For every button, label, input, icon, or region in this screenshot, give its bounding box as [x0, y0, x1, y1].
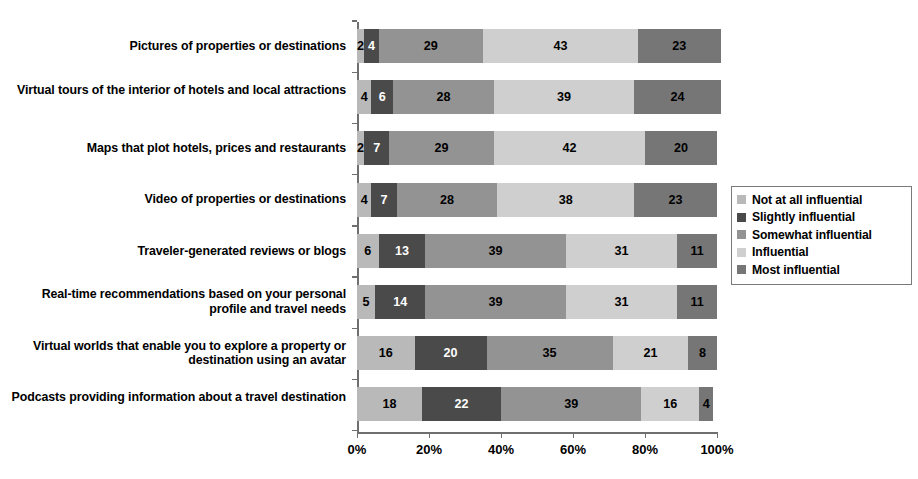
- y-axis-tick: [352, 20, 357, 21]
- legend-swatch-icon: [737, 195, 746, 204]
- legend-item[interactable]: Not at all influential: [737, 191, 906, 208]
- bar-segment: 13: [379, 234, 426, 268]
- bar-row: 47283823: [357, 183, 717, 217]
- bar-segment-value: 13: [395, 244, 409, 258]
- legend-label: Most influential: [752, 263, 840, 277]
- bar-segment-value: 11: [691, 295, 704, 309]
- bar-segment: 6: [371, 80, 393, 114]
- legend-item[interactable]: Slightly influential: [737, 209, 906, 226]
- x-axis-tick-label: 40%: [471, 442, 531, 457]
- bar-segment-value: 39: [489, 295, 503, 309]
- bar-segment-value: 5: [362, 295, 369, 309]
- bar-segment: 11: [677, 234, 717, 268]
- bar-segment: 6: [357, 234, 379, 268]
- legend-swatch-icon: [737, 213, 746, 222]
- bar-segment: 31: [566, 234, 678, 268]
- bar-segment-value: 39: [557, 90, 571, 104]
- bar-segment-value: 11: [691, 244, 704, 258]
- bar-segment: 2: [357, 29, 364, 63]
- bar-row: 162035218: [357, 336, 717, 370]
- legend-item[interactable]: Somewhat influential: [737, 226, 906, 243]
- bar-segment-value: 42: [562, 141, 576, 155]
- bar-segment-value: 20: [444, 346, 458, 360]
- bar-segment-value: 4: [703, 397, 710, 411]
- category-label: Virtual tours of the interior of hotels …: [8, 83, 346, 98]
- bar-segment: 4: [364, 29, 378, 63]
- y-axis-tick: [352, 328, 357, 329]
- bar-segment: 29: [379, 29, 483, 63]
- bar-segment-value: 38: [559, 193, 573, 207]
- chart-legend: Not at all influentialSlightly influenti…: [731, 186, 912, 285]
- bar-segment-value: 16: [379, 346, 393, 360]
- category-label: Virtual worlds that enable you to explor…: [8, 339, 346, 368]
- bar-segment-value: 31: [615, 244, 629, 258]
- bar-segment-value: 2: [357, 39, 364, 53]
- bar-segment-value: 16: [663, 397, 677, 411]
- x-axis-tick: [501, 432, 502, 438]
- x-axis-tick-label: 0%: [327, 442, 387, 457]
- x-axis-tick: [573, 432, 574, 438]
- legend-swatch-icon: [737, 230, 746, 239]
- bar-segment: 7: [371, 183, 396, 217]
- bar-segment-value: 39: [564, 397, 578, 411]
- x-axis-tick: [429, 432, 430, 438]
- bar-segment-value: 8: [699, 346, 706, 360]
- bar-segment: 42: [494, 131, 645, 165]
- category-label: Pictures of properties or destinations: [8, 39, 346, 54]
- bar-segment-value: 29: [424, 39, 438, 53]
- bar-row: 613393111: [357, 234, 717, 268]
- bar-row: 514393111: [357, 285, 717, 319]
- bar-segment: 22: [422, 387, 501, 421]
- bar-row: 182239164: [357, 387, 717, 421]
- bar-segment: 20: [415, 336, 487, 370]
- x-axis-tick-label: 80%: [615, 442, 675, 457]
- bar-row: 24294323: [357, 29, 717, 63]
- bar-segment-value: 23: [672, 39, 686, 53]
- bar-segment: 29: [389, 131, 493, 165]
- legend-item[interactable]: Influential: [737, 244, 906, 261]
- legend-label: Slightly influential: [752, 210, 855, 224]
- x-axis-tick: [645, 432, 646, 438]
- bar-segment-value: 7: [373, 141, 380, 155]
- bar-segment: 23: [638, 29, 721, 63]
- bar-segment: 8: [688, 336, 717, 370]
- bar-segment: 20: [645, 131, 717, 165]
- stacked-bar-chart: Pictures of properties or destinationsVi…: [0, 0, 918, 479]
- x-axis-tick-label: 60%: [543, 442, 603, 457]
- bar-segment-value: 2: [357, 141, 364, 155]
- bar-segment: 18: [357, 387, 422, 421]
- bar-segment-value: 4: [368, 39, 375, 53]
- bar-segment: 35: [487, 336, 613, 370]
- legend-item[interactable]: Most influential: [737, 261, 906, 278]
- category-axis-labels: Pictures of properties or destinationsVi…: [8, 22, 346, 432]
- category-label: Traveler-generated reviews or blogs: [8, 244, 346, 259]
- legend-label: Not at all influential: [752, 193, 862, 207]
- bar-segment: 4: [357, 80, 371, 114]
- bar-segment: 2: [357, 131, 364, 165]
- bar-segment-value: 43: [553, 39, 567, 53]
- x-axis-tick: [717, 432, 718, 438]
- bar-segment: 4: [357, 183, 371, 217]
- bar-segment: 21: [613, 336, 689, 370]
- bar-segment-value: 6: [379, 90, 386, 104]
- bar-segment-value: 7: [380, 193, 387, 207]
- bar-segment-value: 35: [543, 346, 557, 360]
- bar-segment-value: 21: [643, 346, 657, 360]
- bar-segment: 5: [357, 285, 375, 319]
- y-axis-tick: [352, 276, 357, 277]
- bar-segment: 23: [634, 183, 717, 217]
- x-axis-tick: [357, 432, 358, 438]
- bar-segment: 43: [483, 29, 638, 63]
- bar-segment: 28: [397, 183, 498, 217]
- y-axis-tick: [352, 225, 357, 226]
- bar-row: 46283924: [357, 80, 717, 114]
- bar-segment-value: 4: [361, 193, 368, 207]
- bar-segment-value: 4: [361, 90, 368, 104]
- bar-segment-value: 6: [364, 244, 371, 258]
- bar-segment-value: 22: [454, 397, 468, 411]
- bar-segment-value: 39: [489, 244, 503, 258]
- legend-label: Influential: [752, 245, 808, 259]
- bar-segment-value: 14: [393, 295, 407, 309]
- bar-segment: 16: [357, 336, 415, 370]
- category-label: Real-time recommendations based on your …: [8, 287, 346, 316]
